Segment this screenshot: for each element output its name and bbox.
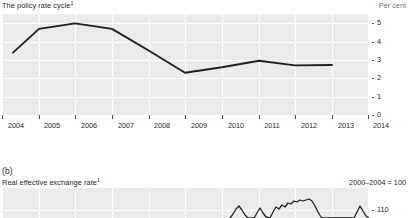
xtick-label-2008: 2008 (154, 121, 170, 130)
xtick-label-2011: 2011 (264, 121, 280, 130)
xtick-label-2014: 2014 (373, 121, 389, 130)
panel-a-title: The policy rate cycle1 (2, 1, 73, 10)
panel-b-title: Real effective exchange rate1 (2, 178, 100, 187)
xtick-mark-2011 (259, 115, 260, 119)
panel-a: The policy rate cycle1 Per cent (0, 0, 408, 140)
xtick-mark-2012 (295, 115, 296, 119)
panel-b-plot-area (2, 188, 369, 218)
panel-a-x-axis: 2004 2005 2006 2007 2008 2009 2010 2011 … (2, 115, 369, 137)
xtick-label-2013: 2013 (338, 121, 354, 130)
xtick-label-2010: 2010 (228, 121, 244, 130)
xtick-mark-2010 (222, 115, 223, 119)
ytick-mark-4 (372, 42, 374, 43)
panel-a-title-text: The policy rate cycle (2, 1, 70, 10)
panel-a-y-axis: 5 4 3 2 1 0 (372, 14, 406, 115)
ytick-mark-0 (372, 115, 374, 116)
panel-b-ytick-label-110: 110 (377, 206, 389, 214)
panel-b-series-svg (2, 188, 369, 218)
panel-b-label: (b) (2, 166, 13, 176)
xtick-mark-2004 (2, 115, 3, 119)
xtick-mark-2005 (39, 115, 40, 119)
panel-a-title-footnote: 1 (70, 0, 73, 6)
xtick-label-2004: 2004 (8, 121, 24, 130)
xtick-label-2007: 2007 (118, 121, 134, 130)
panel-b-unit-label: 2000–2004 = 100 (349, 178, 406, 187)
figure-container: The policy rate cycle1 Per cent (0, 0, 408, 218)
ytick-mark-2 (372, 78, 374, 79)
xtick-mark-2006 (75, 115, 76, 119)
panel-b-title-text: Real effective exchange rate (2, 178, 97, 187)
ytick-label-4: 4 (377, 38, 381, 46)
ytick-label-3: 3 (377, 56, 381, 64)
panel-b: (b) Real effective exchange rate1 2000–2… (0, 166, 408, 218)
xtick-mark-2007 (112, 115, 113, 119)
ytick-label-0: 0 (377, 111, 381, 119)
ytick-mark-5 (372, 23, 374, 24)
real-effective-exchange-rate-line (230, 199, 369, 218)
xtick-label-2005: 2005 (44, 121, 60, 130)
panel-b-title-footnote: 1 (97, 177, 100, 183)
panel-a-unit-label: Per cent (379, 1, 406, 10)
panel-b-y-axis: 110 (372, 188, 406, 218)
ytick-label-1: 1 (377, 93, 381, 101)
policy-rate-line (13, 23, 332, 72)
ytick-label-2: 2 (377, 74, 381, 82)
ytick-mark-1 (372, 97, 374, 98)
panel-a-series-svg (2, 14, 369, 115)
xtick-mark-2008 (149, 115, 150, 119)
xtick-mark-2014 (368, 115, 369, 119)
xtick-label-2012: 2012 (301, 121, 317, 130)
panel-a-plot-area (2, 14, 369, 115)
ytick-label-5: 5 (377, 19, 381, 27)
panel-b-ytick-mark-110 (372, 210, 374, 211)
xtick-mark-2009 (185, 115, 186, 119)
xtick-label-2006: 2006 (81, 121, 97, 130)
ytick-mark-3 (372, 60, 374, 61)
xtick-label-2009: 2009 (191, 121, 207, 130)
xtick-mark-2013 (332, 115, 333, 119)
